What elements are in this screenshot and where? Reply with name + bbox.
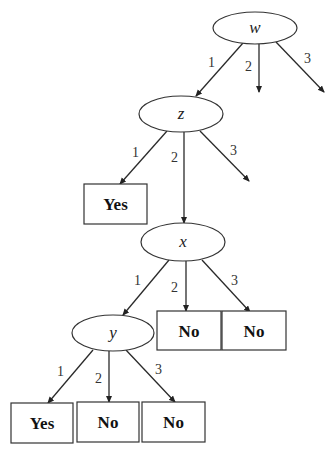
leaf-outcome-label: No — [179, 322, 200, 341]
edge-label: 2 — [171, 280, 178, 295]
edge-label: 3 — [304, 51, 311, 66]
leaf-outcome-label: No — [98, 413, 119, 432]
edge-x-1: 1 — [123, 260, 169, 315]
leaf-y3: No — [142, 402, 205, 442]
edge-arrow — [202, 260, 250, 312]
edge-x-3: 3 — [202, 260, 250, 312]
edge-z-3: 3 — [200, 131, 249, 181]
leaf-outcome-label: No — [163, 413, 184, 432]
edge-label: 1 — [132, 145, 139, 160]
edge-w-1: 1 — [196, 43, 243, 96]
leaf-outcome-label: Yes — [30, 414, 55, 433]
edge-label: 3 — [155, 362, 162, 377]
edge-arrow — [200, 131, 249, 181]
node-z: z — [139, 96, 223, 132]
edge-z-2: 2 — [171, 132, 184, 223]
edge-z-1: 1 — [120, 131, 167, 184]
edge-arrow — [126, 350, 175, 402]
edge-w-2: 2 — [245, 44, 259, 92]
edge-label: 3 — [231, 273, 238, 288]
edge-label: 1 — [208, 55, 215, 70]
leaf-y1: Yes — [11, 403, 73, 443]
edge-label: 2 — [95, 371, 102, 386]
node-y: y — [72, 315, 154, 351]
leaf-x2: No — [157, 311, 221, 350]
edge-y-2: 2 — [95, 351, 109, 402]
edge-y-3: 3 — [126, 350, 175, 402]
edge-label: 1 — [57, 364, 64, 379]
edge-label: 2 — [171, 150, 178, 165]
edge-label: 2 — [245, 59, 252, 74]
edge-arrow — [196, 43, 243, 96]
edge-arrow — [276, 42, 324, 92]
node-variable-label: y — [107, 323, 117, 342]
leaf-nodes: YesNoNoYesNoNo — [11, 184, 286, 443]
edge-y-1: 1 — [48, 350, 93, 403]
edge-w-3: 3 — [276, 42, 324, 92]
node-variable-label: w — [249, 18, 261, 37]
edge-label: 1 — [134, 273, 141, 288]
node-variable-label: x — [178, 232, 187, 251]
leaf-z1: Yes — [84, 184, 147, 224]
leaf-y2: No — [77, 402, 139, 442]
node-w: w — [213, 12, 297, 44]
edge-label: 3 — [230, 143, 237, 158]
edge-arrow — [120, 131, 167, 184]
edge-x-2: 2 — [171, 261, 186, 311]
edge-arrow — [48, 350, 93, 403]
leaf-outcome-label: No — [244, 322, 265, 341]
leaf-outcome-label: Yes — [103, 195, 128, 214]
node-variable-label: z — [177, 104, 185, 123]
decision-tree-diagram: 123123123123 wzxy YesNoNoYesNoNo — [0, 0, 335, 451]
node-x: x — [141, 223, 225, 261]
leaf-x3: No — [222, 311, 286, 350]
edge-arrow — [123, 260, 169, 315]
